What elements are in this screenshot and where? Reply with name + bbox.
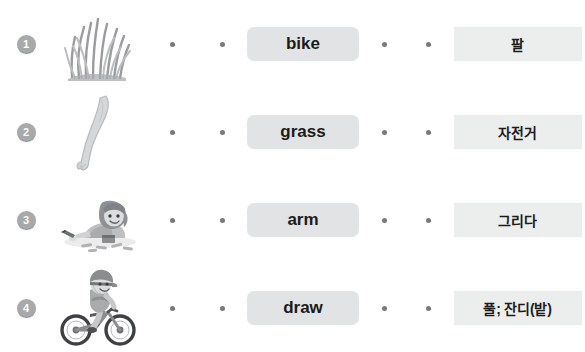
english-word-box-3[interactable]: arm — [247, 203, 359, 237]
english-word-box-1[interactable]: bike — [247, 27, 359, 61]
korean-word-box-3[interactable]: 그리다 — [454, 203, 582, 237]
connector-dot-korean-left[interactable] — [426, 218, 431, 223]
english-word-cell: grass — [244, 115, 362, 149]
grass-tuft-illustration[interactable] — [52, 0, 144, 88]
connector-dot-english-right[interactable] — [382, 218, 387, 223]
english-word-cell: arm — [244, 203, 362, 237]
korean-word-cell: 그리다 — [450, 203, 585, 237]
grass-tuft-icon — [58, 5, 138, 83]
matching-row: 1 — [0, 0, 585, 88]
row-number-cell: 2 — [0, 123, 52, 142]
connector-dot-english-left-cell[interactable] — [200, 306, 244, 311]
row-number-cell: 4 — [0, 299, 52, 318]
english-word-cell: bike — [244, 27, 362, 61]
korean-word-box-1[interactable]: 팔 — [454, 27, 582, 61]
child-drawing-with-crayons-illustration[interactable] — [52, 176, 144, 264]
connector-dot-english-left[interactable] — [220, 306, 225, 311]
connector-dot-korean-left[interactable] — [426, 130, 431, 135]
matching-row: 3 — [0, 176, 585, 264]
connector-dot-left-cell[interactable] — [144, 306, 200, 311]
child-riding-bicycle-icon — [56, 266, 140, 350]
korean-word-cell: 풀; 잔디(밭) — [450, 291, 585, 325]
connector-dot-korean-left[interactable] — [426, 306, 431, 311]
connector-dot-left[interactable] — [170, 130, 175, 135]
connector-dot-korean-left-cell[interactable] — [406, 306, 450, 311]
connector-dot-left[interactable] — [170, 42, 175, 47]
connector-dot-korean-left-cell[interactable] — [406, 42, 450, 47]
english-word-cell: draw — [244, 291, 362, 325]
connector-dot-korean-left[interactable] — [426, 42, 431, 47]
korean-word-box-2[interactable]: 자전거 — [454, 115, 582, 149]
connector-dot-english-left[interactable] — [220, 130, 225, 135]
korean-word-cell: 팔 — [450, 27, 585, 61]
matching-worksheet: 1 — [0, 0, 585, 352]
connector-dot-left-cell[interactable] — [144, 130, 200, 135]
connector-dot-english-right[interactable] — [382, 42, 387, 47]
row-number-badge-3: 3 — [17, 211, 36, 230]
row-number-badge-1: 1 — [17, 35, 36, 54]
connector-dot-english-right-cell[interactable] — [362, 130, 406, 135]
connector-dot-korean-left-cell[interactable] — [406, 130, 450, 135]
connector-dot-english-right[interactable] — [382, 130, 387, 135]
row-number-badge-4: 4 — [17, 299, 36, 318]
connector-dot-left-cell[interactable] — [144, 218, 200, 223]
connector-dot-english-right-cell[interactable] — [362, 218, 406, 223]
english-word-box-2[interactable]: grass — [247, 115, 359, 149]
korean-word-cell: 자전거 — [450, 115, 585, 149]
connector-dot-left[interactable] — [170, 218, 175, 223]
connector-dot-left-cell[interactable] — [144, 42, 200, 47]
english-word-box-4[interactable]: draw — [247, 291, 359, 325]
matching-row: 4 — [0, 264, 585, 352]
human-arm-illustration[interactable] — [52, 88, 144, 176]
connector-dot-english-left[interactable] — [220, 42, 225, 47]
connector-dot-english-left-cell[interactable] — [200, 42, 244, 47]
matching-row: 2 grass 자전거 — [0, 88, 585, 176]
connector-dot-english-left[interactable] — [220, 218, 225, 223]
human-arm-icon — [68, 92, 128, 172]
connector-dot-english-right[interactable] — [382, 306, 387, 311]
connector-dot-english-right-cell[interactable] — [362, 42, 406, 47]
connector-dot-left[interactable] — [170, 306, 175, 311]
child-riding-bicycle-illustration[interactable] — [52, 264, 144, 352]
connector-dot-korean-left-cell[interactable] — [406, 218, 450, 223]
connector-dot-english-left-cell[interactable] — [200, 218, 244, 223]
row-number-cell: 1 — [0, 35, 52, 54]
child-drawing-icon — [55, 188, 141, 252]
row-number-badge-2: 2 — [17, 123, 36, 142]
connector-dot-english-right-cell[interactable] — [362, 306, 406, 311]
connector-dot-english-left-cell[interactable] — [200, 130, 244, 135]
korean-word-box-4[interactable]: 풀; 잔디(밭) — [454, 291, 582, 325]
row-number-cell: 3 — [0, 211, 52, 230]
